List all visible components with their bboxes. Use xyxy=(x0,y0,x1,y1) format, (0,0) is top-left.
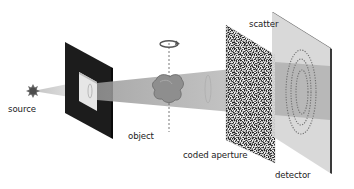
diagram-canvas xyxy=(0,0,354,189)
object-shape xyxy=(152,75,183,103)
rotation-arrow-icon xyxy=(160,41,180,48)
detector-panel xyxy=(272,12,332,174)
source-label: source xyxy=(8,104,36,114)
scatter-label: scatter xyxy=(249,19,278,29)
coded-aperture-panel xyxy=(226,25,275,163)
coded-aperture-label: coded aperture xyxy=(183,150,248,160)
object-label: object xyxy=(128,131,154,141)
detector-label: detector xyxy=(275,170,310,180)
starburst-icon xyxy=(26,84,40,98)
